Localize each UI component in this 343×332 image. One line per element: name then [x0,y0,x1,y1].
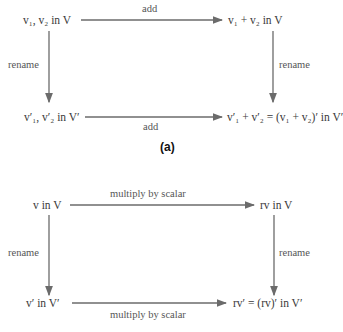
label-rename-right-b: rename [279,246,310,260]
node-sum-in-V: v₁ + v₂ in V [228,13,283,27]
label-rename-right-a: rename [279,58,310,72]
node-v-in-V: v in V [33,198,62,212]
label-add-top: add [142,2,157,16]
node-v1p-v2p-in-Vp: v′₁, v′₂ in V′ [24,110,80,124]
node-renamed-sum: v′₁ + v′₂ = (v₁ + v₂)′ in V′ [227,110,343,124]
label-rename-left-a: rename [8,58,39,72]
node-rv-in-V: rv in V [260,198,292,212]
label-rename-left-b: rename [8,246,39,260]
caption-a: (a) [160,140,175,154]
label-add-bottom: add [143,120,158,134]
node-rvp: rv′ = (rv)′ in V′ [233,296,302,310]
node-vp-in-Vp: v′ in V′ [26,296,60,310]
label-multiply-top: multiply by scalar [110,187,186,201]
node-v1-v2-in-V: v₁, v₂ in V [23,13,71,27]
label-multiply-bottom: multiply by scalar [110,308,186,322]
